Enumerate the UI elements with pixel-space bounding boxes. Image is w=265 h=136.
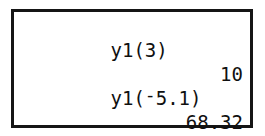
calculator-screenshot: y1(3) 10 y1(-5.1) 68.32 xyxy=(0,0,265,136)
display-line-entry-1: y1(3) xyxy=(19,14,245,38)
calculator-display-lines: y1(3) 10 y1(-5.1) 68.32 xyxy=(19,14,245,123)
display-line-result-1: 10 xyxy=(19,38,245,62)
display-line-result-2: 68.32 xyxy=(19,86,245,110)
display-line-entry-2: y1(-5.1) xyxy=(19,62,245,86)
calculator-screen[interactable]: y1(3) 10 y1(-5.1) 68.32 xyxy=(11,9,253,128)
display-line-cursor[interactable] xyxy=(19,110,245,136)
